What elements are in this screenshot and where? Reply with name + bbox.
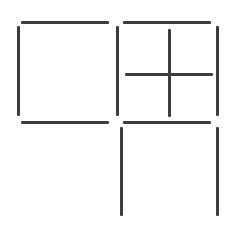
matchstick-vertical[interactable] <box>17 26 20 116</box>
matchstick-vertical[interactable] <box>116 26 119 116</box>
matchstick-vertical[interactable] <box>120 127 123 216</box>
matchstick-vertical[interactable] <box>216 26 219 116</box>
matchstick-horizontal[interactable] <box>21 21 109 24</box>
matchstick-horizontal[interactable] <box>123 121 211 124</box>
matchstick-vertical[interactable] <box>216 127 219 216</box>
matchstick-horizontal[interactable] <box>125 73 213 76</box>
matchstick-horizontal[interactable] <box>21 121 109 124</box>
matchstick-horizontal[interactable] <box>123 21 211 24</box>
